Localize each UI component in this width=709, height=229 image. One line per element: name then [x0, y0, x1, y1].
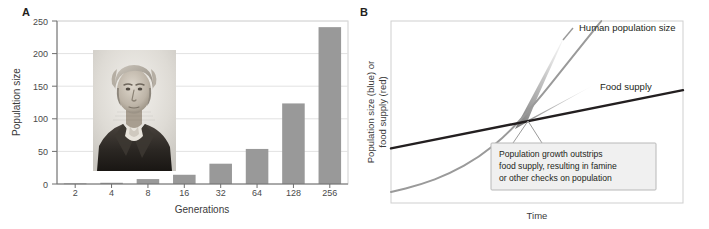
y-axis-title-b: Population size (blue) or food supply (r…	[365, 61, 388, 163]
y-tick-labels-a: 0 50 100 150 200 250	[33, 17, 48, 190]
bar	[209, 164, 232, 184]
callout-line-1: Population growth outstrips	[499, 149, 603, 159]
bar	[319, 27, 342, 184]
bar	[137, 179, 160, 184]
x-tick-label: 128	[286, 188, 301, 198]
y-axis-title-b-line2: food supply (red)	[377, 76, 388, 147]
y-tick-label: 250	[33, 17, 48, 27]
malthus-portrait-inset	[93, 50, 176, 171]
callout-line-2: food supply, resulting in famine	[499, 161, 617, 171]
x-tick-labels-a: 248163264128256	[73, 184, 338, 198]
y-tick-label: 200	[33, 49, 48, 59]
human-population-label: Human population size	[579, 22, 676, 33]
y-tick-label: 100	[33, 114, 48, 124]
y-axis-title-a: Population size	[11, 68, 22, 136]
y-tick-label: 150	[33, 82, 48, 92]
x-tick-label: 8	[145, 188, 150, 198]
bar	[173, 175, 196, 184]
y-axis-title-b-line1: Population size (blue) or	[365, 61, 376, 163]
bar	[282, 103, 305, 184]
x-tick-label: 64	[252, 188, 262, 198]
x-tick-label: 2	[73, 188, 78, 198]
x-tick-label: 4	[109, 188, 114, 198]
panel-b: B Human population size Food suppl	[360, 0, 709, 229]
bar	[246, 149, 269, 184]
portrait-icon	[93, 50, 176, 171]
callout-line-3: or other checks on population	[499, 173, 612, 183]
line-chart-panel-b: Human population size Food supply Popula…	[360, 0, 709, 229]
bar-chart-panel-a: 0 50 100 150 200 250 Population size 248…	[0, 0, 360, 229]
x-axis-title-b: Time	[527, 210, 548, 221]
x-tick-label: 256	[322, 188, 337, 198]
x-tick-label: 16	[179, 188, 189, 198]
x-axis-title-a: Generations	[175, 204, 229, 215]
panel-a: A	[0, 0, 360, 229]
x-tick-label: 32	[216, 188, 226, 198]
y-axis-a	[52, 21, 57, 184]
food-supply-label: Food supply	[600, 81, 652, 92]
y-tick-label: 50	[38, 147, 48, 157]
figure-container: A	[0, 0, 709, 229]
y-tick-label: 0	[43, 180, 48, 190]
